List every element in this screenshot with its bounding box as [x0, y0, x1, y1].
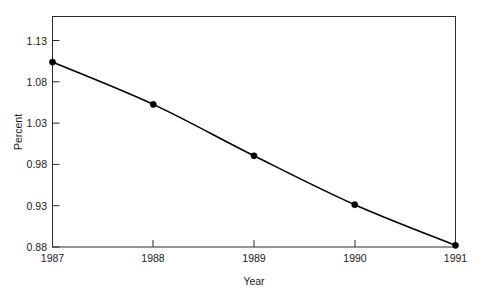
y-tick-label-1: 1.08 — [27, 76, 48, 88]
x-tick-label-4: 1991 — [444, 252, 468, 264]
data-point-1987 — [49, 59, 55, 65]
x-tick-label-1: 1988 — [141, 252, 165, 264]
y-tick-label-3: 0.98 — [27, 158, 48, 170]
y-axis-title: Percent — [12, 114, 24, 150]
x-axis-title: Year — [243, 275, 265, 287]
y-tick-label-0: 1.13 — [27, 35, 48, 47]
x-tick-label-0: 1987 — [41, 252, 65, 264]
chart-canvas: 1.13 1.08 1.03 0.98 0.93 0.88 1987 1988 … — [0, 0, 481, 305]
y-tick-label-2: 1.03 — [27, 117, 48, 129]
data-point-1988 — [150, 101, 156, 107]
x-tick-label-2: 1989 — [242, 252, 266, 264]
y-tick-label-4: 0.93 — [27, 200, 48, 212]
data-point-1989 — [251, 153, 257, 159]
chart-background — [0, 0, 481, 305]
data-point-1991 — [452, 242, 458, 248]
data-point-1990 — [352, 202, 358, 208]
x-tick-label-3: 1990 — [343, 252, 367, 264]
line-chart: 1.13 1.08 1.03 0.98 0.93 0.88 1987 1988 … — [0, 0, 481, 305]
